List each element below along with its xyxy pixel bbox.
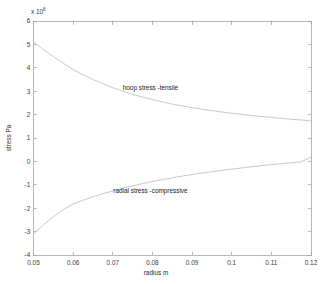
x-tick-label: 0.05 xyxy=(27,259,40,266)
y-exponent-prefix: x 10 xyxy=(31,8,44,15)
y-tick-label: 4 xyxy=(27,64,31,71)
y-tick-label: 1 xyxy=(27,134,31,141)
y-tick-label: 0 xyxy=(27,158,31,165)
y-tick-label: 2 xyxy=(27,111,31,118)
plot-background xyxy=(0,0,331,284)
x-tick-label: 0.12 xyxy=(305,259,318,266)
radial-stress-annotation: radial stress -compressive xyxy=(113,187,188,195)
y-tick-label: -1 xyxy=(25,181,31,188)
y-tick-label: 6 xyxy=(27,17,31,24)
x-tick-label: 0.09 xyxy=(186,259,199,266)
x-tick-label: 0.06 xyxy=(67,259,80,266)
y-tick-label: -2 xyxy=(25,205,31,212)
y-axis-title: stress Pa xyxy=(5,124,12,151)
x-tick-label: 0.08 xyxy=(146,259,159,266)
y-tick-label: 5 xyxy=(27,41,31,48)
y-exponent-power: 8 xyxy=(43,7,46,12)
x-axis-title: radius m xyxy=(144,269,169,276)
x-tick-label: 0.07 xyxy=(107,259,120,266)
hoop-stress-annotation: hoop stress -tensile xyxy=(123,84,179,92)
x-tick-label: 0.11 xyxy=(265,259,277,266)
y-tick-label: -4 xyxy=(25,251,31,258)
y-tick-label: -3 xyxy=(25,228,31,235)
y-tick-label: 3 xyxy=(27,88,31,95)
stress-radius-plot: 0.050.060.070.080.090.10.110.12 6543210-… xyxy=(0,0,331,284)
figure-canvas: 0.050.060.070.080.090.10.110.12 6543210-… xyxy=(0,0,331,284)
x-tick-label: 0.1 xyxy=(227,259,236,266)
